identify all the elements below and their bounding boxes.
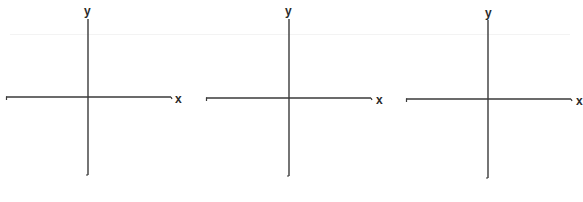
x-axis-label: x — [175, 93, 182, 105]
axes-panel-3 — [406, 20, 572, 178]
x-axis-label: x — [576, 95, 583, 107]
axes-panel-2 — [206, 19, 372, 176]
axes-panel-1 — [6, 19, 172, 175]
x-axis-right-end-tick — [571, 99, 572, 101]
x-axis-right-end-tick — [171, 97, 172, 99]
y-axis-label: y — [84, 5, 91, 17]
x-axis-label: x — [376, 94, 383, 106]
x-axis-right-end-tick — [371, 98, 372, 100]
y-axis-label: y — [285, 5, 292, 17]
y-axis-label: y — [485, 7, 492, 19]
